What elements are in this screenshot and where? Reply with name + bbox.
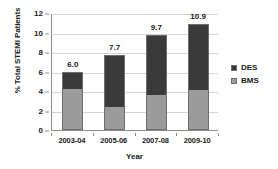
x-axis-tick-mark (218, 133, 219, 136)
bar-segment-bms[interactable] (147, 95, 166, 129)
x-axis-ticks: 2003-042005-062007-082009-10 (51, 133, 218, 147)
x-axis-tick-label: 2003-04 (58, 136, 85, 145)
y-axis-tick-label: 6 (39, 69, 43, 77)
stacked-bar-chart: % Total STEMI Patients 024681012 6.07.79… (0, 0, 278, 169)
bar-group[interactable]: 6.0 (62, 14, 83, 130)
bar-segment-bms[interactable] (105, 107, 124, 129)
x-axis-tick-mark (93, 133, 94, 136)
bar-segment-des[interactable] (63, 73, 82, 90)
x-axis-tick-label: 2007-08 (142, 136, 169, 145)
bar-value-label: 9.7 (151, 24, 162, 32)
plot-area: 6.07.79.710.9 (51, 14, 218, 131)
y-axis-tick-mark (45, 33, 49, 34)
bars-layer: 6.07.79.710.9 (52, 14, 218, 130)
y-axis-tick-mark (45, 72, 49, 73)
bar-group[interactable]: 7.7 (104, 14, 125, 130)
y-axis-tick-mark (45, 111, 49, 112)
legend-item-bms[interactable]: BMS (231, 74, 277, 87)
bar-group[interactable]: 9.7 (146, 14, 167, 130)
y-axis-tick-mark (45, 92, 49, 93)
y-axis-tick-label: 12 (34, 10, 43, 18)
bar-segment-des[interactable] (189, 25, 208, 90)
x-axis-title: Year (51, 152, 218, 161)
x-axis-tick-mark (176, 133, 177, 136)
bar-segment-des[interactable] (105, 56, 124, 107)
y-axis-tick-label: 8 (39, 49, 43, 57)
bar-segment-bms[interactable] (189, 90, 208, 129)
x-axis-tick-mark (135, 133, 136, 136)
legend-item-des[interactable]: DES (231, 61, 277, 74)
legend-label: BMS (241, 77, 259, 85)
x-axis-tick-label: 2009-10 (184, 136, 211, 145)
y-axis-tick-label: 10 (34, 30, 43, 38)
bar-stack[interactable] (62, 72, 83, 131)
x-axis-tick-mark (51, 133, 52, 136)
bar-value-label: 6.0 (67, 61, 78, 69)
legend-swatch-icon (231, 78, 237, 84)
x-axis-tick-label: 2005-06 (100, 136, 127, 145)
bar-segment-des[interactable] (147, 36, 166, 94)
bar-value-label: 7.7 (109, 44, 120, 52)
bar-value-label: 10.9 (190, 13, 206, 21)
y-axis-tick-label: 4 (39, 88, 43, 96)
bar-stack[interactable] (146, 35, 167, 130)
legend-label: DES (241, 64, 257, 72)
bar-group[interactable]: 10.9 (188, 14, 209, 130)
bar-stack[interactable] (188, 24, 209, 130)
y-axis-tick-mark (45, 14, 49, 15)
chart-legend: DESBMS (231, 61, 277, 87)
y-axis-tick-mark (45, 53, 49, 54)
y-axis-tick-label: 2 (39, 108, 43, 116)
bar-stack[interactable] (104, 55, 125, 130)
y-axis-tick-label: 0 (39, 127, 43, 135)
y-axis-tick-mark (45, 131, 49, 132)
y-axis-ticks: 024681012 (0, 14, 49, 131)
bar-segment-bms[interactable] (63, 89, 82, 129)
legend-swatch-icon (231, 65, 237, 71)
